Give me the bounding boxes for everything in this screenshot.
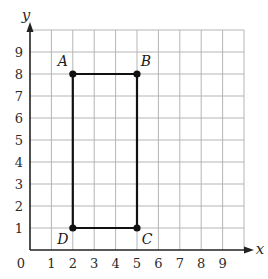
vertices: ABCD [56, 53, 153, 247]
x-tick-label: 1 [47, 256, 55, 271]
vertex-c-label: C [142, 231, 153, 247]
y-axis-label: y [21, 6, 31, 24]
x-axis-arrow-icon [244, 247, 254, 254]
vertex-b-dot [133, 70, 140, 77]
y-tick-label: 5 [15, 133, 23, 148]
x-tick-labels: 123456789 [47, 256, 226, 271]
rectangle-outline [73, 74, 137, 228]
coordinate-plane: y x 0 123456789 123456789 ABCD [0, 0, 268, 279]
y-tick-label: 6 [15, 111, 23, 126]
y-tick-labels: 123456789 [15, 45, 23, 236]
vertex-a-dot [69, 70, 76, 77]
x-tick-label: 4 [111, 256, 119, 271]
x-tick-label: 9 [218, 256, 226, 271]
rectangle-abcd [73, 74, 137, 228]
vertex-d-label: D [56, 231, 68, 247]
y-tick-label: 7 [15, 89, 23, 104]
y-tick-label: 2 [15, 199, 23, 214]
y-tick-label: 9 [15, 45, 23, 60]
vertex-a-label: A [56, 53, 68, 69]
x-axis-label: x [256, 240, 265, 258]
x-tick-label: 5 [133, 256, 141, 271]
x-tick-label: 2 [69, 256, 77, 271]
y-tick-label: 3 [15, 177, 23, 192]
origin-label: 0 [17, 256, 25, 271]
y-tick-label: 4 [15, 155, 23, 170]
x-tick-label: 7 [176, 256, 184, 271]
vertex-c-dot [133, 224, 140, 231]
vertex-b-label: B [140, 53, 151, 69]
vertex-d-dot [69, 224, 76, 231]
y-tick-label: 8 [15, 67, 23, 82]
x-tick-label: 8 [197, 256, 205, 271]
y-tick-label: 1 [15, 221, 23, 236]
x-tick-label: 6 [154, 256, 162, 271]
x-tick-label: 3 [90, 256, 98, 271]
